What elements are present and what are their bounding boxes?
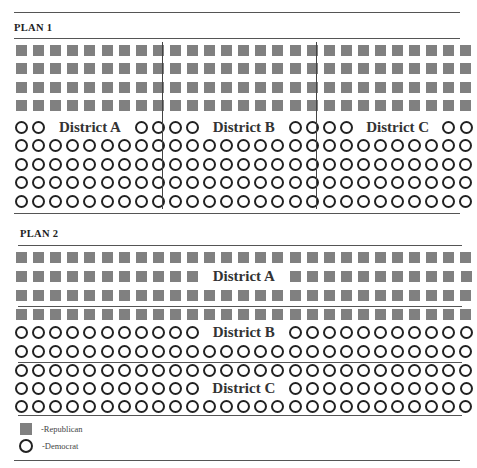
republican-voter-icon [238, 290, 249, 301]
democrat-voter-icon [459, 139, 472, 152]
democrat-voter-icon [49, 382, 62, 395]
republican-voter-icon [409, 290, 420, 301]
republican-voter-icon [307, 271, 318, 282]
republican-voter-icon [170, 82, 181, 93]
republican-voter-icon [358, 82, 369, 93]
republican-voter-icon [375, 63, 386, 74]
republican-voter-icon [272, 252, 283, 263]
democrat-voter-icon [323, 176, 336, 189]
plan1-row [13, 139, 475, 153]
democrat-voter-icon [391, 139, 404, 152]
democrat-voter-icon [237, 364, 250, 377]
democrat-voter-icon [135, 400, 148, 413]
republican-voter-icon [307, 309, 318, 320]
republican-voter-icon [443, 45, 454, 56]
democrat-voter-icon [186, 121, 199, 134]
democrat-voter-icon [442, 139, 455, 152]
republican-voter-icon [375, 252, 386, 263]
republican-voter-icon [324, 63, 335, 74]
democrat-voter-icon [186, 400, 199, 413]
democrat-voter-icon [340, 139, 353, 152]
democrat-voter-icon [442, 364, 455, 377]
democrat-voter-icon [459, 364, 472, 377]
democrat-voter-icon [169, 400, 182, 413]
republican-voter-icon [136, 82, 147, 93]
republican-voter-icon [119, 45, 130, 56]
democrat-voter-icon [203, 139, 216, 152]
republican-voter-icon [170, 100, 181, 111]
democrat-voter-icon [118, 326, 131, 339]
democrat-voter-icon [220, 176, 233, 189]
republican-voter-icon [341, 271, 352, 282]
republican-voter-icon [290, 290, 301, 301]
democrat-voter-icon [32, 345, 45, 358]
republican-voter-icon [272, 82, 283, 93]
democrat-voter-icon [135, 176, 148, 189]
democrat-voter-icon [442, 326, 455, 339]
democrat-voter-icon [220, 195, 233, 208]
republican-voter-icon [255, 45, 266, 56]
democrat-voter-icon [357, 195, 370, 208]
republican-voter-icon [375, 271, 386, 282]
republican-voter-icon [255, 100, 266, 111]
democrat-voter-icon [118, 345, 131, 358]
democrat-voter-icon [101, 400, 114, 413]
republican-voter-icon [409, 63, 420, 74]
democrat-voter-icon [237, 176, 250, 189]
republican-voter-icon [426, 63, 437, 74]
republican-voter-icon [119, 82, 130, 93]
democrat-voter-icon [101, 326, 114, 339]
republican-voter-icon [221, 252, 232, 263]
democrat-voter-icon [152, 400, 165, 413]
republican-voter-icon [16, 100, 27, 111]
democrat-voter-icon [391, 400, 404, 413]
democrat-voter-icon [408, 345, 421, 358]
republican-voter-icon [102, 100, 113, 111]
democrat-voter-icon [323, 139, 336, 152]
democrat-voter-icon [408, 382, 421, 395]
democrat-voter-icon [289, 176, 302, 189]
republican-voter-icon [153, 271, 164, 282]
plan2-row [13, 399, 475, 413]
republican-voter-icon [460, 82, 471, 93]
democrat-voter-icon [340, 364, 353, 377]
democrat-voter-icon [306, 345, 319, 358]
plan2-row [13, 344, 475, 358]
republican-voter-icon [221, 290, 232, 301]
republican-voter-icon [255, 82, 266, 93]
democrat-voter-icon [289, 195, 302, 208]
democrat-voter-icon [169, 364, 182, 377]
democrat-voter-icon [83, 382, 96, 395]
plan1-divider-bc [316, 42, 317, 209]
plan2-row: District A [13, 269, 475, 283]
republican-voter-icon [67, 290, 78, 301]
republican-voter-icon [238, 252, 249, 263]
democrat-voter-icon [271, 195, 284, 208]
plan1-divider-ab [162, 42, 163, 209]
democrat-voter-icon [101, 364, 114, 377]
republican-voter-icon [341, 290, 352, 301]
republican-voter-icon [16, 309, 27, 320]
republican-voter-icon [290, 309, 301, 320]
plan2-row [13, 307, 475, 321]
republican-voter-icon [255, 63, 266, 74]
democrat-voter-icon [323, 158, 336, 171]
democrat-voter-icon [169, 158, 182, 171]
democrat-voter-icon [289, 345, 302, 358]
republican-voter-icon [272, 63, 283, 74]
democrat-voter-icon [15, 382, 28, 395]
republican-voter-icon [16, 82, 27, 93]
democrat-voter-icon [101, 158, 114, 171]
plan1-district-label: District C [355, 119, 441, 136]
democrat-voter-icon [408, 158, 421, 171]
democrat-voter-icon [135, 326, 148, 339]
democrat-voter-icon [83, 326, 96, 339]
republican-voter-icon [84, 309, 95, 320]
democrat-voter-icon [220, 158, 233, 171]
democrat-voter-icon [254, 176, 267, 189]
democrat-voter-icon [152, 345, 165, 358]
democrat-voter-icon [357, 400, 370, 413]
democrat-voter-icon [135, 158, 148, 171]
republican-voter-icon [392, 45, 403, 56]
democrat-voter-icon [408, 139, 421, 152]
